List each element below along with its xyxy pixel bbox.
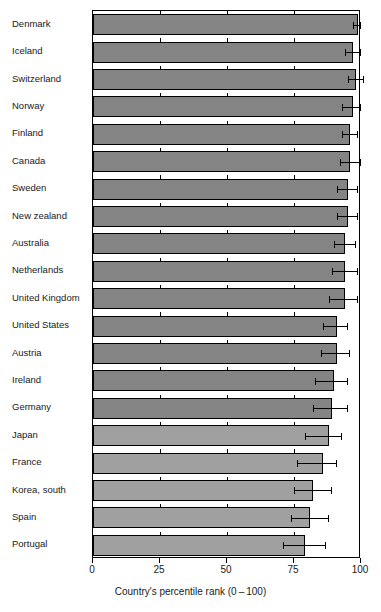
bar-row [93,11,359,38]
bar-row [93,38,359,65]
bar [93,42,353,63]
category-label: Portugal [12,539,96,549]
error-bar [337,216,358,217]
bar-row [93,148,359,175]
error-bar [291,518,329,519]
x-tick-label: 25 [153,564,164,576]
bar [93,124,350,145]
bar-row [93,422,359,449]
category-label: Germany [12,402,96,412]
bar [93,453,323,474]
error-bar-cap-high [341,433,342,440]
category-label: Australia [12,238,96,248]
error-bar-cap-low [340,159,341,166]
error-bar-cap-low [353,22,354,29]
error-bar [321,353,350,354]
error-bar-cap-high [360,104,361,111]
error-bar-cap-low [305,433,306,440]
error-bar-cap-low [345,49,346,56]
error-bar-cap-high [357,213,358,220]
category-label: Ireland [12,375,96,385]
category-label: Finland [12,128,96,138]
category-label: Sweden [12,183,96,193]
error-bar [294,490,332,491]
error-bar-cap-low [315,378,316,385]
bar [93,69,356,90]
category-label: Denmark [12,19,96,29]
bar-row [93,121,359,148]
x-tick-label: 0 [89,564,95,576]
error-bar-cap-high [363,76,364,83]
bar-row [93,367,359,394]
category-label: Austria [12,348,96,358]
error-bar-cap-high [347,378,348,385]
bar-row [93,312,359,339]
error-bar-cap-high [336,460,337,467]
bar [93,206,348,227]
bar [93,14,358,35]
error-bar-cap-low [313,405,314,412]
error-bar [342,107,361,108]
error-bar-cap-low [291,515,292,522]
error-bar [297,463,337,464]
bar [93,370,334,391]
bar-row [93,285,359,312]
x-tick-label: 100 [352,564,369,576]
category-label: Canada [12,156,96,166]
bar [93,288,345,309]
bar-row [93,449,359,476]
error-bar [337,189,358,190]
plot-area [92,10,360,558]
category-label: Iceland [12,46,96,56]
error-bar-cap-high [349,350,350,357]
error-bar [305,436,343,437]
error-bar [315,381,347,382]
x-tick-mark [293,558,294,563]
x-tick-mark [92,558,93,563]
bar [93,398,332,419]
error-bar-cap-low [342,131,343,138]
error-bar-cap-high [357,131,358,138]
error-bar-cap-high [357,268,358,275]
bar-row [93,340,359,367]
x-tick-label: 75 [287,564,298,576]
category-label: New zealand [12,211,96,221]
error-bar-cap-low [334,241,335,248]
bar-row [93,477,359,504]
error-bar [329,299,358,300]
error-bar-cap-low [337,186,338,193]
error-bar [323,326,347,327]
error-bar-cap-low [297,460,298,467]
error-bar-cap-high [347,323,348,330]
bar [93,179,348,200]
error-bar [313,408,348,409]
category-label: Netherlands [12,265,96,275]
bar [93,507,310,528]
x-axis-tick-labels: 0255075100 [92,564,360,578]
bar-row [93,504,359,531]
error-bar-cap-high [360,22,361,29]
error-bar-cap-high [355,241,356,248]
error-bar [342,134,358,135]
error-bar [283,545,326,546]
error-bar-cap-high [331,487,332,494]
error-bar [340,162,361,163]
category-label: United Kingdom [12,293,96,303]
bar-row [93,175,359,202]
error-bar-cap-high [357,296,358,303]
error-bar-cap-low [342,104,343,111]
category-label: Korea, south [12,485,96,495]
error-bar [353,25,361,26]
category-label: Norway [12,101,96,111]
category-label: Japan [12,430,96,440]
bar-row [93,66,359,93]
bar-row [93,93,359,120]
error-bar-cap-low [294,487,295,494]
y-axis-category-labels: DenmarkIcelandSwitzerlandNorwayFinlandCa… [0,10,88,558]
bar [93,233,345,254]
error-bar-cap-low [323,323,324,330]
bar [93,343,337,364]
error-bar-cap-low [329,296,330,303]
error-bar-cap-high [347,405,348,412]
error-bar-cap-low [283,542,284,549]
